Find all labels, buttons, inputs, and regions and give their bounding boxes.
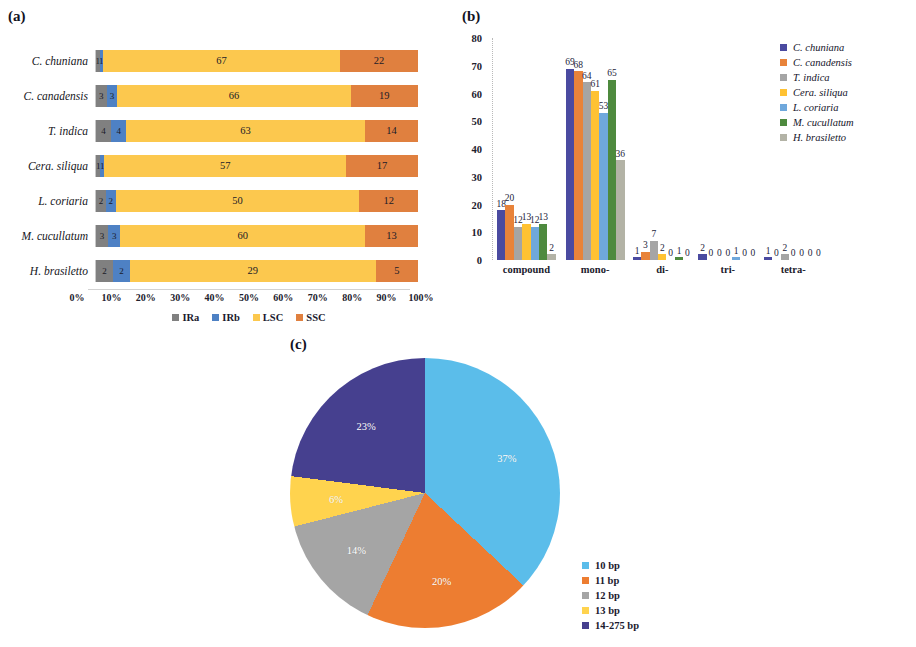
panel-b-bar-wrap: 64 <box>583 38 591 260</box>
panel-b-bar <box>633 257 641 260</box>
panel-b-group-mono: 69686461536536 <box>561 38 630 260</box>
panel-a-segment-ssc: 19 <box>351 85 418 107</box>
panel-a-stacked-bar-chart: (a) C. chuniana116722C. canadensis336619… <box>0 0 450 330</box>
panel-b-bar-wrap: 20 <box>505 38 513 260</box>
panel-b-bar-value: 1 <box>635 247 640 257</box>
panel-a-rows: C. chuniana116722C. canadensis336619T. i… <box>0 44 420 289</box>
panel-a-segment-lsc: 67 <box>103 50 340 72</box>
panel-a-legend: IRaIRbLSCSSC <box>88 312 410 323</box>
pie-slice-label: 14% <box>347 544 366 555</box>
panel-b-bar <box>514 227 522 260</box>
legend-swatch-icon <box>780 74 787 81</box>
panel-a-x-tick: 20% <box>129 292 163 303</box>
panel-b-bar <box>505 205 513 261</box>
panel-b-legend-label: T. indica <box>793 72 830 83</box>
panel-a-row-label: H. brasiletto <box>0 265 95 277</box>
panel-b-x-tick: tetra- <box>761 264 826 275</box>
panel-c-legend: 10 bp11 bp12 bp13 bp14-275 bp <box>582 558 639 633</box>
panel-b-legend-label: C. chuniana <box>793 42 844 53</box>
panel-b-bar-value: 0 <box>799 249 804 259</box>
pie-slice-label: 37% <box>497 452 516 463</box>
panel-c-legend-item: 14-275 bp <box>582 618 639 633</box>
panel-a-axis-line <box>88 289 410 290</box>
panel-c-legend-label: 11 bp <box>595 575 619 586</box>
panel-b-bar <box>641 252 649 260</box>
panel-b-bar-value: 0 <box>742 249 747 259</box>
panel-c-legend-label: 13 bp <box>595 605 620 616</box>
panel-b-bar <box>497 210 505 260</box>
panel-a-row: C. canadensis336619 <box>0 79 420 112</box>
panel-b-bar-wrap: 0 <box>724 38 732 260</box>
panel-b-bar <box>658 254 666 260</box>
panel-c-label: (c) <box>290 336 307 353</box>
panel-b-bar-wrap: 0 <box>715 38 723 260</box>
panel-a-legend-item: IRb <box>212 312 240 323</box>
panel-b-legend-item: L. coriaria <box>780 100 854 115</box>
panel-b-bar-wrap: 61 <box>591 38 599 260</box>
panel-a-x-tick: 70% <box>301 292 335 303</box>
panel-b-y-tick: 60 <box>472 88 483 99</box>
panel-b-grouped-bar-chart: (b) 01020304050607080 182012131213269686… <box>450 0 916 330</box>
panel-b-legend-item: M. cucullatum <box>780 115 854 130</box>
panel-a-segment-ssc: 12 <box>359 190 418 212</box>
legend-swatch-icon <box>780 104 787 111</box>
panel-b-bar-value: 7 <box>652 230 657 240</box>
panel-b-legend-label: M. cucullatum <box>793 117 854 128</box>
panel-a-segment-lsc: 66 <box>117 85 351 107</box>
panel-b-bar-value: 1 <box>734 247 739 257</box>
panel-b-x-tick: mono- <box>561 264 630 275</box>
panel-b-bar <box>583 82 591 260</box>
panel-a-segment-ssc: 13 <box>365 225 418 247</box>
panel-b-legend-item: Cera. siliqua <box>780 85 854 100</box>
panel-b-bar-value: 2 <box>660 244 665 254</box>
panel-a-stacked-bar: 446314 <box>95 120 418 142</box>
panel-b-bar-value: 2 <box>700 244 705 254</box>
panel-b-bar-value: 0 <box>725 249 730 259</box>
panel-b-bar-wrap: 13 <box>539 38 547 260</box>
legend-swatch-icon <box>253 314 260 321</box>
panel-a-x-tick: 90% <box>370 292 404 303</box>
panel-a-row: T. indica446314 <box>0 114 420 147</box>
panel-a-segment-ira: 4 <box>96 120 111 142</box>
panel-b-bar-value: 0 <box>774 249 779 259</box>
panel-b-bar-value: 2 <box>782 244 787 254</box>
panel-a-x-tick: 40% <box>198 292 232 303</box>
panel-b-y-tick: 40 <box>472 144 483 155</box>
panel-a-segment-ira: 3 <box>96 225 108 247</box>
panel-b-bar-value: 0 <box>808 249 813 259</box>
panel-b-legend-label: L. coriaria <box>793 102 839 113</box>
panel-c-pie-area: 37%20%14%6%23% <box>290 358 560 628</box>
panel-a-stacked-bar: 225012 <box>95 190 418 212</box>
panel-b-legend-label: C. canadensis <box>793 57 852 68</box>
panel-a-row: L. coriaria225012 <box>0 184 420 217</box>
panel-b-bar-wrap: 12 <box>514 38 522 260</box>
panel-b-bar-wrap: 0 <box>666 38 674 260</box>
panel-a-stacked-bar: 336013 <box>95 225 418 247</box>
legend-swatch-icon <box>582 562 589 569</box>
panel-b-bar <box>522 224 530 260</box>
panel-b-bar-value: 36 <box>616 150 626 160</box>
panel-b-bar-value: 0 <box>791 249 796 259</box>
panel-b-bar-wrap: 2 <box>658 38 666 260</box>
panel-b-bar <box>591 91 599 260</box>
panel-c-legend-label: 12 bp <box>595 590 620 601</box>
panel-b-bar <box>675 257 683 260</box>
legend-swatch-icon <box>780 44 787 51</box>
panel-b-x-tick: di- <box>630 264 695 275</box>
panel-a-row-label: L. coriaria <box>0 195 95 207</box>
panel-b-bar-wrap: 3 <box>641 38 649 260</box>
panel-b-bar-wrap: 69 <box>566 38 574 260</box>
panel-b-group-compound: 1820121312132 <box>492 38 561 260</box>
panel-b-legend-label: Cera. siliqua <box>793 87 848 98</box>
panel-c-legend-item: 11 bp <box>582 573 639 588</box>
panel-a-segment-lsc: 50 <box>116 190 360 212</box>
panel-b-bar-value: 0 <box>668 249 673 259</box>
panel-b-bar <box>547 254 555 260</box>
pie-graphic: 37%20%14%6%23% <box>290 358 560 628</box>
panel-b-bar-wrap: 0 <box>749 38 757 260</box>
panel-b-bar <box>608 80 616 260</box>
panel-b-bar-wrap: 1 <box>764 38 772 260</box>
panel-b-bar-wrap: 1 <box>732 38 740 260</box>
panel-b-bar-wrap: 7 <box>650 38 658 260</box>
panel-b-x-tick-labels: compoundmono-di-tri-tetra- <box>492 264 826 275</box>
